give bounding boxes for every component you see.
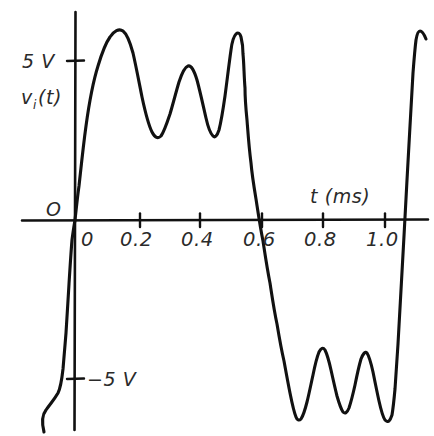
x-tick-label-0.8: 0.8 bbox=[304, 228, 337, 251]
y-tick-plus5v bbox=[67, 61, 84, 62]
x-tick-label-0.6: 0.6 bbox=[243, 228, 276, 251]
signal-name-main: v bbox=[21, 86, 33, 108]
waveform-figure: 5 V −5 V v i (t) O t (ms) 0 0.2 0.4 0.6 … bbox=[0, 0, 434, 436]
signal-name-subscript: i bbox=[33, 98, 37, 112]
x-axis-line bbox=[22, 220, 428, 221]
signal-name-tail: (t) bbox=[38, 86, 62, 108]
x-tick-label-0.2: 0.2 bbox=[120, 228, 153, 251]
x-tick-label-1.0: 1.0 bbox=[366, 228, 399, 251]
figure-background bbox=[0, 0, 434, 436]
x-tick-label-0.4: 0.4 bbox=[181, 228, 214, 251]
y-tick-minus5v bbox=[67, 379, 84, 380]
y-axis-bottom-label: −5 V bbox=[87, 368, 138, 390]
y-axis-top-label: 5 V bbox=[22, 50, 56, 72]
x-tick-label-0: 0 bbox=[81, 228, 94, 251]
x-axis-title: t (ms) bbox=[310, 185, 370, 207]
origin-label: O bbox=[46, 198, 62, 220]
